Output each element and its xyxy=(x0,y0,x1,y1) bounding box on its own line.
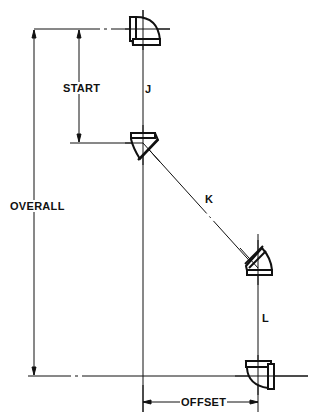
upper-45-elbow-icon xyxy=(125,125,160,165)
offset-label: OFFSET xyxy=(180,396,227,408)
start-label: START xyxy=(62,82,101,94)
start-arrow-bottom xyxy=(77,134,81,142)
segment-j-label: J xyxy=(144,83,152,95)
overall-arrow-bottom xyxy=(32,367,36,375)
overall-arrow-top xyxy=(32,30,36,38)
lower-45-elbow-icon xyxy=(240,240,272,285)
top-90-elbow-icon xyxy=(125,10,170,50)
start-arrow-top xyxy=(77,30,81,38)
segment-l-label: L xyxy=(261,312,270,324)
bottom-90-elbow-icon xyxy=(235,355,308,395)
overall-label: OVERALL xyxy=(9,200,66,212)
segment-k-label: K xyxy=(204,193,214,205)
offset-arrow-right xyxy=(250,400,258,404)
offset-arrow-left xyxy=(143,400,151,404)
